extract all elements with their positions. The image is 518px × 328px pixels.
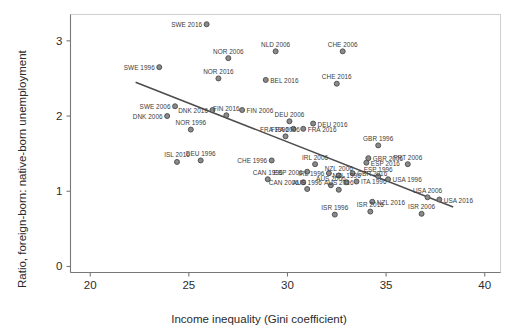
point-label: ISR 1996: [321, 204, 348, 211]
data-point: [157, 65, 162, 70]
data-point: [226, 56, 231, 61]
x-axis-label: Income inequality (Gini coefficient): [0, 313, 518, 325]
point-label: ITA 1996: [361, 178, 387, 185]
data-point: [368, 209, 373, 214]
point-label: DNK 2016: [178, 107, 208, 114]
point-label: FRA 2006: [271, 125, 300, 132]
point-label: CHE 2006: [328, 40, 358, 47]
data-point: [263, 77, 268, 82]
point-label: BEL 2016: [270, 76, 298, 83]
x-tick-label: 25: [182, 279, 195, 291]
data-point: [204, 22, 209, 27]
y-tick-label: 2: [56, 110, 62, 122]
data-point: [313, 162, 318, 167]
data-point: [354, 179, 359, 184]
point-label: IRL 2006: [302, 153, 328, 160]
point-label: ISL 2016: [164, 151, 190, 158]
data-point: [334, 81, 339, 86]
x-tick-label: 40: [478, 279, 491, 291]
point-label: NLD 2006: [261, 40, 290, 47]
data-point: [273, 49, 278, 54]
x-tick-label: 35: [380, 279, 393, 291]
data-point: [173, 104, 178, 109]
data-point: [425, 195, 430, 200]
data-point: [216, 76, 221, 81]
data-point: [376, 143, 381, 148]
data-point: [336, 187, 341, 192]
data-point: [437, 197, 442, 202]
point-label: DNK 2006: [133, 113, 163, 120]
data-point: [198, 158, 203, 163]
data-point: [287, 119, 292, 124]
point-label: DEU 2006: [274, 110, 304, 117]
point-label: USA 2016: [444, 196, 473, 203]
point-label: ISR 2016: [357, 201, 384, 208]
x-tick-label: 20: [84, 279, 97, 291]
point-label: SWE 2006: [140, 103, 171, 110]
point-label: FRA 2016: [308, 125, 337, 132]
data-point: [405, 162, 410, 167]
point-label: CHE 1996: [237, 157, 267, 164]
point-label: NOR 2006: [213, 47, 244, 54]
point-label: CHE 2016: [322, 73, 352, 80]
data-point: [165, 114, 170, 119]
data-point: [419, 211, 424, 216]
data-point: [175, 159, 180, 164]
data-point: [301, 126, 306, 131]
point-label: AUS 1996: [292, 178, 322, 185]
point-label: DEU 1996: [186, 149, 216, 156]
point-label: ISR 2006: [408, 203, 435, 210]
data-point: [240, 108, 245, 113]
point-label: USA 1996: [393, 176, 422, 183]
data-point: [283, 134, 288, 139]
y-tick-label: 1: [56, 185, 62, 197]
data-point: [269, 158, 274, 163]
y-tick-label: 3: [56, 35, 62, 47]
data-point: [332, 212, 337, 217]
data-point: [188, 127, 193, 132]
point-label: NOR 1996: [176, 119, 207, 126]
point-label: SWE 1996: [124, 64, 155, 71]
y-axis-label: Ratio, foreign-born: native-born unemplo…: [16, 50, 28, 288]
plot-canvas: [0, 0, 518, 328]
y-tick-label: 0: [56, 260, 62, 272]
point-label: FIN 2016: [213, 104, 240, 111]
point-label: PRT 2006: [393, 153, 422, 160]
data-point: [305, 187, 310, 192]
point-label: AUS 2016: [324, 179, 354, 186]
point-label: GBR 1996: [363, 134, 393, 141]
x-tick-label: 30: [281, 279, 294, 291]
scatter-plot-figure: SWE 2016NLD 2006CHE 2006NOR 2006SWE 1996…: [0, 0, 518, 328]
point-label: FIN 2006: [247, 107, 274, 114]
point-label: ESP 1996: [364, 165, 393, 172]
data-point: [224, 113, 229, 118]
data-point: [340, 49, 345, 54]
trend-line: [136, 82, 454, 207]
point-label: NOR 2016: [203, 67, 234, 74]
point-label: SWE 2016: [171, 21, 202, 28]
point-label: USA 2006: [413, 186, 442, 193]
plot-frame: [71, 15, 501, 273]
axes-lines: [71, 15, 501, 273]
